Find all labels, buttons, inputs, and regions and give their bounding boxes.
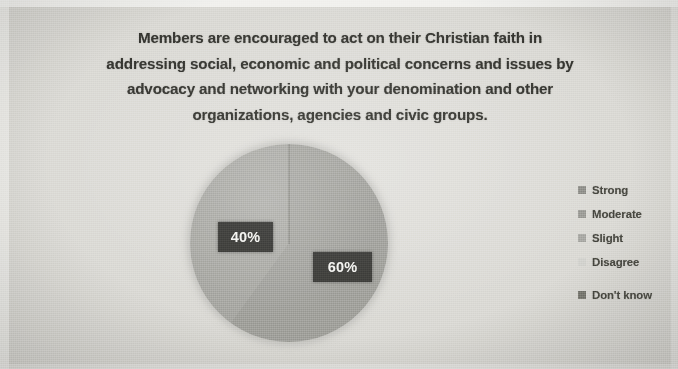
legend-swatch-icon (578, 291, 586, 299)
legend-item-disagree: Disagree (578, 250, 676, 274)
pie-data-label-left: 40% (218, 222, 273, 252)
frame-edge-left (0, 0, 9, 369)
presentation-slide: Members are encouraged to act on their C… (0, 0, 678, 369)
legend-item-label: Moderate (592, 208, 642, 220)
chart-title: Members are encouraged to act on their C… (52, 25, 628, 127)
chart-title-line-2: addressing social, economic and politica… (52, 51, 628, 77)
frame-edge-top (0, 0, 678, 7)
legend-swatch-icon (578, 210, 586, 218)
chart-legend: Strong Moderate Slight Disagree Don't kn… (578, 178, 676, 307)
chart-title-line-3: advocacy and networking with your denomi… (52, 76, 628, 102)
legend-item-slight: Slight (578, 226, 676, 250)
frame-edge-bottom (0, 364, 678, 369)
legend-swatch-icon (578, 186, 586, 194)
legend-swatch-icon (578, 258, 586, 266)
pie-data-label-right: 60% (313, 252, 372, 282)
legend-swatch-icon (578, 234, 586, 242)
legend-item-label: Strong (592, 184, 628, 196)
legend-item-label: Disagree (592, 256, 639, 268)
chart-title-line-4: organizations, agencies and civic groups… (52, 102, 628, 128)
legend-item-label: Don't know (592, 289, 652, 301)
legend-item-dont-know: Don't know (578, 283, 676, 307)
pie-slice-divider (288, 144, 289, 244)
legend-item-moderate: Moderate (578, 202, 676, 226)
chart-title-line-1: Members are encouraged to act on their C… (52, 25, 628, 51)
legend-item-label: Slight (592, 232, 623, 244)
legend-item-strong: Strong (578, 178, 676, 202)
